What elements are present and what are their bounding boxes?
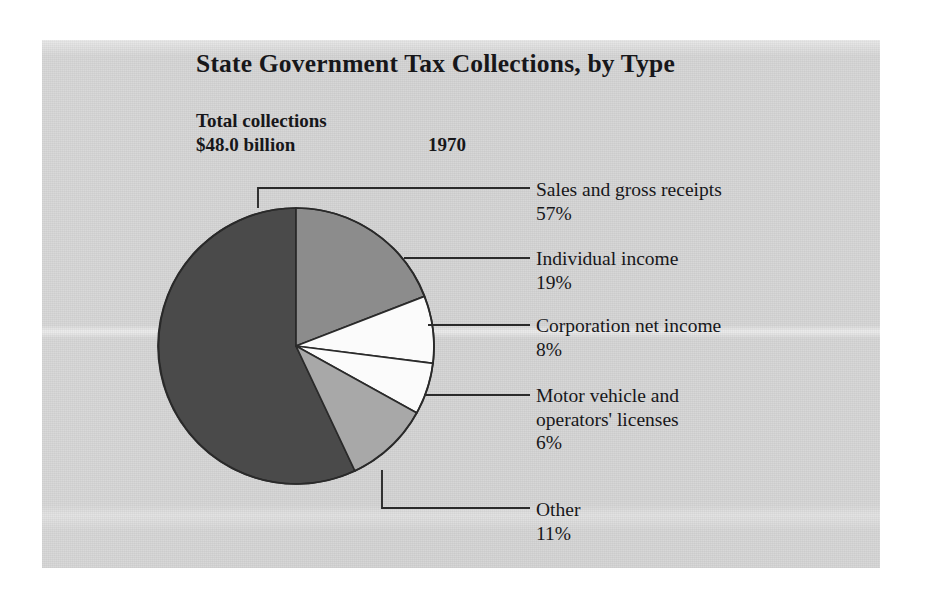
- callout-other: Other 11%: [536, 498, 580, 545]
- callout-corporation-pct: 8%: [536, 338, 721, 362]
- figure-page: State Government Tax Collections, by Typ…: [0, 0, 926, 604]
- callout-individual-name: Individual income: [536, 248, 678, 269]
- pie-chart-graphic: [0, 0, 926, 604]
- callout-motor-pct: 6%: [536, 431, 679, 455]
- callout-motor-name-line1: Motor vehicle and: [536, 385, 679, 406]
- callout-individual-pct: 19%: [536, 271, 678, 295]
- callout-corporation-name: Corporation net income: [536, 315, 721, 336]
- callout-sales-pct: 57%: [536, 202, 722, 226]
- leader-line-sales-and-gross-receipts: [258, 188, 530, 208]
- callout-other-pct: 11%: [536, 522, 580, 546]
- callout-sales-name: Sales and gross receipts: [536, 179, 722, 200]
- callout-sales-and-gross-receipts: Sales and gross receipts 57%: [536, 178, 722, 225]
- callout-motor-vehicle-licenses: Motor vehicle and operators' licenses 6%: [536, 384, 679, 455]
- callout-other-name: Other: [536, 499, 580, 520]
- callout-individual-income: Individual income 19%: [536, 247, 678, 294]
- callout-motor-name-line2: operators' licenses: [536, 408, 679, 432]
- leader-line-other: [382, 470, 530, 508]
- callout-corporation-net-income: Corporation net income 8%: [536, 314, 721, 361]
